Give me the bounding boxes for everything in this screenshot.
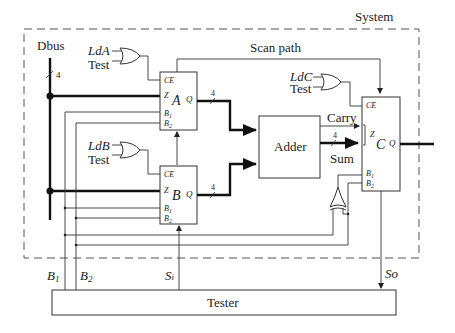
svg-text:B1: B1 [47, 268, 59, 284]
svg-text:B: B [172, 188, 181, 203]
svg-text:Q: Q [389, 138, 396, 148]
svg-text:CE: CE [164, 170, 174, 179]
svg-text:Si: Si [165, 268, 175, 283]
or-gate-b [120, 142, 140, 158]
system-boundary [24, 29, 419, 258]
scan-path-label: Scan path [250, 40, 301, 55]
dbus-width: 4 [56, 70, 61, 80]
svg-text:A: A [171, 93, 181, 108]
testc-label: Test [290, 81, 312, 96]
svg-text:4: 4 [211, 89, 215, 98]
dbus-label: Dbus [37, 38, 64, 53]
svg-text:Z: Z [164, 91, 169, 100]
ldb-label: LdB [87, 138, 110, 153]
bilbo-scan-diagram: System Dbus 4 LdA Test CE Z A Q B1 B2 Sc… [0, 0, 455, 333]
svg-text:Z: Z [370, 130, 375, 139]
tester-label: Tester [207, 295, 239, 310]
adder-label: Adder [274, 139, 307, 154]
svg-text:Q: Q [186, 94, 193, 104]
or-gate-c [321, 74, 341, 90]
testa-label: Test [88, 57, 110, 72]
testb-label: Test [88, 152, 110, 167]
svg-text:4: 4 [211, 183, 215, 192]
svg-text:B2: B2 [80, 268, 93, 284]
lda-label: LdA [87, 43, 110, 58]
svg-text:Sum: Sum [330, 151, 354, 166]
xor-gate [330, 187, 346, 207]
svg-text:Carry: Carry [327, 110, 357, 125]
svg-text:C: C [376, 137, 386, 152]
svg-text:Q: Q [186, 189, 193, 199]
svg-text:4: 4 [333, 131, 337, 140]
svg-text:Z: Z [164, 186, 169, 195]
svg-text:CE: CE [164, 76, 174, 85]
svg-text:So: So [385, 266, 399, 281]
or-gate-a [120, 48, 140, 64]
svg-text:CE: CE [366, 101, 376, 110]
system-label: System [355, 9, 393, 24]
